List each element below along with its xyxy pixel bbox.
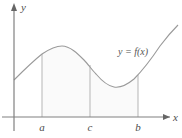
- calculus-area-figure: y x y = f(x) a c b: [0, 0, 182, 138]
- figure-canvas: y x y = f(x) a c b: [0, 0, 182, 138]
- x-axis-label: x: [172, 111, 178, 123]
- tick-label-c: c: [88, 121, 93, 133]
- x-axis-arrowhead: [163, 114, 170, 120]
- y-axis-label: y: [20, 1, 26, 13]
- curve-label: y = f(x): [117, 46, 149, 58]
- y-axis-arrowhead: [11, 3, 17, 11]
- tick-label-b: b: [135, 121, 141, 133]
- tick-label-a: a: [39, 121, 45, 133]
